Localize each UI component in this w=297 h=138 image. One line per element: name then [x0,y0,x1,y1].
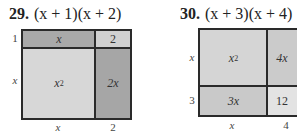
problem-29-title: 29.(x + 1)(x + 2) [9,5,121,23]
divider-vertical [94,31,96,118]
col-label-x: x [230,119,235,131]
divider-horizontal [23,47,130,49]
col-label-2: 2 [110,121,116,133]
cell-x-squared: x2 [23,49,95,118]
area-model-29: x 2 x2 2x [21,29,132,120]
row-label-1: 1 [12,32,18,44]
row-label-x: x [13,74,18,86]
cell-x-squared: x2 [200,30,267,86]
cell-2: 2 [96,31,130,48]
problem-number: 30. [180,5,200,22]
problem-expression: (x + 1)(x + 2) [34,5,121,22]
problem-number: 29. [9,5,29,22]
col-label-4: 4 [283,119,289,131]
divider-horizontal [200,85,297,87]
cell-4x: 4x [268,30,297,86]
cell-x: x [23,31,95,48]
row-label-x: x [190,51,195,63]
cell-2x: 2x [96,49,130,118]
problem-30-title: 30.(x + 3)(x + 4) [180,5,292,23]
col-label-x: x [56,121,61,133]
cell-3x: 3x [200,87,267,115]
cell-12: 12 [268,87,297,115]
divider-vertical [266,30,268,115]
row-label-3: 3 [189,94,195,106]
problem-expression: (x + 3)(x + 4) [205,5,292,22]
area-model-30: x2 4x 3x 12 [198,28,297,117]
